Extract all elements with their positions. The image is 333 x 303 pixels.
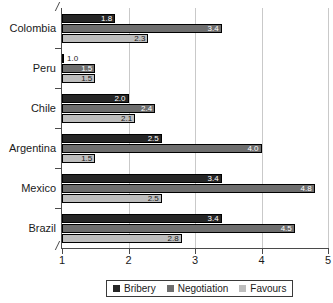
category-separator-tick: [55, 168, 62, 169]
bar-value-label: 1.5: [81, 64, 95, 73]
bar-brazil-negotiation: [62, 224, 295, 233]
legend-swatch-icon: [167, 285, 174, 292]
bar-value-label: 4.0: [247, 144, 261, 153]
bar-value-label: 3.4: [207, 214, 221, 223]
bar-value-label: 3.4: [207, 174, 221, 183]
category-label-peru: Peru: [33, 62, 56, 75]
legend-item-bribery[interactable]: Bribery: [113, 283, 156, 294]
bar-mexico-bribery: [62, 174, 222, 183]
legend-item-negotiation[interactable]: Negotiation: [167, 283, 229, 294]
category-separator-tick: [55, 48, 62, 49]
legend-label: Bribery: [124, 283, 156, 294]
bar-value-label: 2.8: [168, 234, 182, 243]
category-separator-tick: [55, 128, 62, 129]
bar-value-label: 3.4: [207, 24, 221, 33]
category-label-mexico: Mexico: [21, 182, 56, 195]
bar-value-label: 2.0: [114, 94, 128, 103]
bar-value-label: 1.5: [81, 154, 95, 163]
bar-value-label: 2.5: [148, 134, 162, 143]
bar-value-label: 2.4: [141, 104, 155, 113]
legend-swatch-icon: [239, 285, 246, 292]
bar-colombia-negotiation: [62, 24, 222, 33]
bar-value-label: 1.5: [81, 74, 95, 83]
category-label-chile: Chile: [31, 102, 56, 115]
bar-mexico-negotiation: [62, 184, 315, 193]
plot-area: 1.83.42.31.01.51.52.02.42.12.54.01.53.44…: [62, 8, 328, 248]
x-axis-tick-label: 5: [325, 254, 331, 267]
category-separator-tick: [55, 208, 62, 209]
bar-value-label: 1.8: [101, 14, 115, 23]
x-axis-tick-label: 1: [59, 254, 65, 267]
bar-value-label: 2.1: [121, 114, 135, 123]
x-axis-tick-label: 2: [125, 254, 131, 267]
bar-value-label: 4.8: [301, 184, 315, 193]
bar-argentina-negotiation: [62, 144, 262, 153]
category-label-colombia: Colombia: [10, 22, 56, 35]
category-label-argentina: Argentina: [9, 142, 56, 155]
category-separator-tick: [55, 88, 62, 89]
legend-item-favours[interactable]: Favours: [239, 283, 286, 294]
x-axis-tick-label: 3: [192, 254, 198, 267]
bar-value-label: 1.0: [64, 54, 78, 63]
bar-brazil-bribery: [62, 214, 222, 223]
legend-label: Favours: [250, 283, 286, 294]
bar-chart: ColombiaPeruChileArgentinaMexicoBrazil 1…: [0, 0, 333, 303]
legend-label: Negotiation: [178, 283, 229, 294]
x-axis-tick-label: 4: [258, 254, 264, 267]
category-label-brazil: Brazil: [28, 222, 56, 235]
legend-swatch-icon: [113, 285, 120, 292]
bar-value-label: 2.3: [134, 34, 148, 43]
bar-value-label: 2.5: [148, 194, 162, 203]
bar-brazil-favours: [62, 234, 182, 243]
bar-value-label: 4.5: [281, 224, 295, 233]
chart-legend: BriberyNegotiationFavours: [106, 280, 293, 297]
gridline: [328, 8, 329, 248]
